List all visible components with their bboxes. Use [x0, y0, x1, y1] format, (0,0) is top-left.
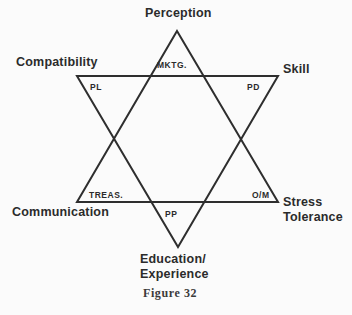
label-communication: Communication — [12, 205, 109, 220]
downward-triangle — [77, 76, 278, 247]
label-stress-tolerance: Stress Tolerance — [283, 195, 343, 225]
inner-label-mktg: MKTG. — [157, 60, 187, 70]
label-education-experience: Education/ Experience — [140, 252, 209, 282]
inner-label-om: O/M — [252, 190, 270, 200]
inner-label-pd: PD — [247, 82, 260, 92]
label-perception: Perception — [145, 6, 212, 21]
inner-label-treas: TREAS. — [89, 190, 123, 200]
inner-label-pp: PP — [165, 209, 177, 219]
inner-label-pl: PL — [90, 82, 102, 92]
figure-caption: Figure 32 — [143, 286, 197, 301]
upward-triangle — [77, 31, 278, 202]
label-compatibility: Compatibility — [16, 55, 98, 70]
label-skill: Skill — [283, 62, 310, 77]
figure-canvas: Perception Compatibility Skill Communica… — [0, 0, 352, 315]
